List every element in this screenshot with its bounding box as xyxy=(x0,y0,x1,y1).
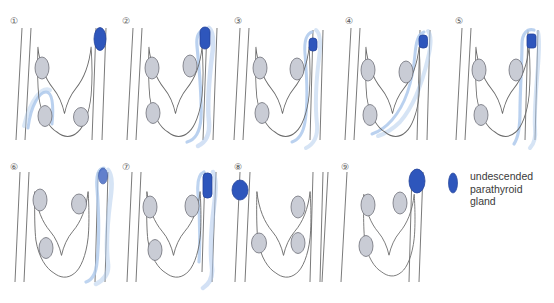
panel-2-parathyroid-glands xyxy=(145,55,197,124)
panel-3-parathyroid-glands xyxy=(253,57,304,124)
panel-5-parathyroid-glands xyxy=(472,59,523,126)
panel-9-vessel-lines xyxy=(322,172,423,282)
panel-5-undescended-gland xyxy=(527,34,536,48)
panel-8-undescended-gland xyxy=(232,180,248,200)
parathyroid-diagram: ① ② xyxy=(0,0,554,303)
panel-8: ⑧ xyxy=(232,162,323,282)
legend-gland-marker xyxy=(449,173,458,193)
panel-9-undescended-gland xyxy=(409,169,425,193)
panel-7-label: ⑦ xyxy=(122,162,130,172)
panel-1-undescended-gland xyxy=(94,28,106,51)
panel-3-undescended-gland xyxy=(309,38,317,51)
panel-3-label: ③ xyxy=(234,16,242,26)
panel-5-vessel-lines xyxy=(456,28,538,140)
panel-3: ③ xyxy=(234,16,323,148)
panel-9-label: ⑨ xyxy=(341,162,349,172)
panel-6: ⑥ xyxy=(10,162,112,284)
panel-2-undescended-gland xyxy=(200,27,210,49)
panel-8-label: ⑧ xyxy=(234,162,242,172)
panel-5: ⑤ xyxy=(455,16,539,148)
panel-2: ② xyxy=(122,16,217,146)
legend-line-2: parathyroid xyxy=(470,183,550,196)
legend-line-3: gland xyxy=(470,195,550,208)
panel-6-label: ⑥ xyxy=(10,162,18,172)
panel-4: ④ xyxy=(345,16,431,140)
panel-4-label: ④ xyxy=(345,16,353,26)
panel-7: ⑦ xyxy=(122,162,216,288)
panel-7-undescended-gland xyxy=(203,173,212,198)
panel-9: ⑨ xyxy=(322,162,425,282)
panel-2-label: ② xyxy=(122,16,130,26)
panel-9-parathyroid-glands xyxy=(359,192,407,257)
panel-5-label: ⑤ xyxy=(455,16,463,26)
panel-6-vessel-lines xyxy=(15,172,108,282)
panel-1-label: ① xyxy=(10,16,18,26)
legend-line-1: undescended xyxy=(470,170,550,183)
panel-1: ① xyxy=(10,16,106,140)
legend-label: undescended parathyroid gland xyxy=(470,170,550,208)
panel-4-undescended-gland xyxy=(419,35,428,48)
panel-6-undescended-gland xyxy=(99,168,108,184)
panel-7-parathyroid-glands xyxy=(143,195,199,261)
